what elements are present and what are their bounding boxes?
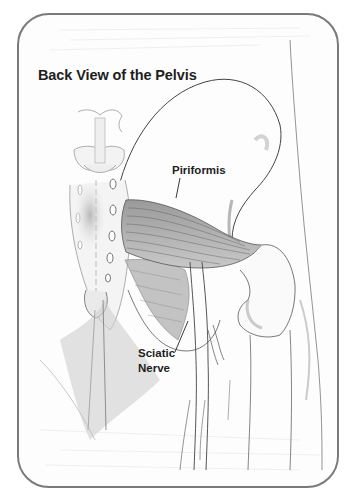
label-sciatic-line1: Sciatic [138,346,175,361]
label-sciatic-nerve: Sciatic Nerve [138,346,175,376]
diagram-title: Back View of the Pelvis [38,67,197,83]
lumbar-vertebrae [74,110,124,173]
piriformis-leader-line [176,178,180,198]
label-piriformis: Piriformis [172,163,226,178]
label-sciatic-line2: Nerve [138,361,175,376]
